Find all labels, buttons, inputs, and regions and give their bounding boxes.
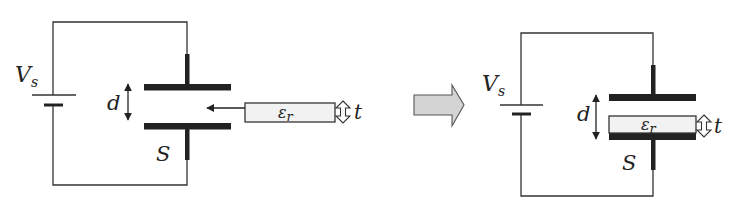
battery-icon bbox=[32, 95, 76, 105]
top-plate bbox=[609, 94, 696, 101]
thickness-label: t bbox=[354, 100, 363, 124]
thickness-arrow-icon bbox=[697, 115, 711, 137]
source-voltage-label: Vs bbox=[482, 71, 505, 99]
bottom-plate bbox=[144, 123, 231, 130]
thickness-label: t bbox=[714, 114, 723, 138]
capacitor-dielectric-diagram: Vs d S εr t bbox=[0, 0, 746, 218]
gap-label: d bbox=[577, 102, 590, 126]
source-voltage-label: Vs bbox=[15, 62, 38, 90]
block-arrow-right-icon bbox=[414, 85, 464, 126]
top-plate bbox=[144, 84, 231, 91]
circuit-after: Vs εr d S t bbox=[482, 33, 723, 196]
area-label: S bbox=[622, 151, 636, 175]
circuit-before: Vs d S εr t bbox=[15, 22, 363, 185]
top-plate-lead bbox=[185, 54, 190, 85]
bottom-plate-lead bbox=[185, 129, 190, 160]
gap-label: d bbox=[107, 91, 120, 115]
area-label: S bbox=[156, 142, 170, 166]
battery-icon bbox=[500, 105, 543, 114]
bottom-plate-lead bbox=[651, 139, 656, 170]
thickness-arrow-icon bbox=[336, 101, 350, 123]
top-plate-lead bbox=[651, 65, 656, 95]
